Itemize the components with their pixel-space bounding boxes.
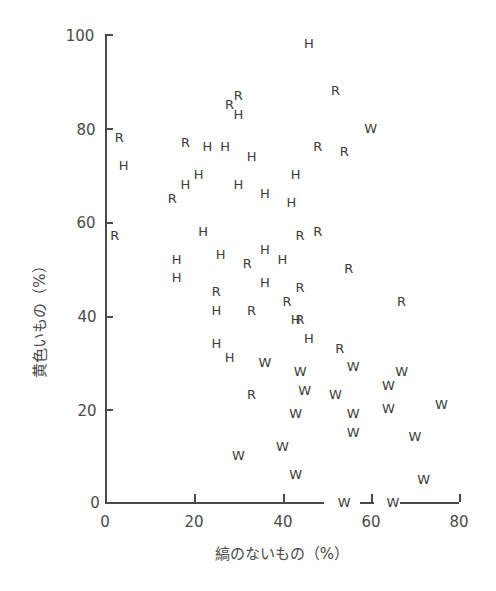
x-tick-80 [459, 494, 461, 502]
x-axis-line-segment-2 [360, 502, 374, 504]
data-point-r: R [331, 84, 340, 97]
data-point-h: H [291, 168, 301, 181]
data-point-r: R [247, 388, 256, 401]
data-point-w: W [417, 472, 430, 485]
data-point-w: W [338, 496, 351, 509]
data-point-r: R [397, 294, 406, 307]
data-point-r: R [344, 262, 353, 275]
data-point-h: H [194, 168, 204, 181]
data-point-h: H [225, 350, 235, 363]
data-point-w: W [289, 467, 302, 480]
data-point-r: R [225, 98, 234, 111]
data-point-r: R [168, 191, 177, 204]
data-point-w: W [347, 407, 360, 420]
y-tick-label: 60 [76, 214, 95, 232]
data-point-h: H [278, 252, 288, 265]
data-point-h: H [233, 107, 243, 120]
data-point-w: W [347, 425, 360, 438]
data-point-r: R [335, 341, 344, 354]
y-tick-80 [105, 128, 113, 130]
data-point-h: H [260, 276, 270, 289]
data-point-r: R [340, 145, 349, 158]
data-point-r: R [313, 140, 322, 153]
data-point-r: R [313, 224, 322, 237]
x-tick-label: 80 [449, 513, 468, 531]
data-point-h: H [260, 243, 270, 256]
data-point-h: H [172, 252, 182, 265]
data-point-h: H [216, 247, 226, 260]
y-tick-40 [105, 316, 113, 318]
scatter-chart: 100 80 60 40 20 0 0 20 40 60 80 黄色いもの（%）… [0, 0, 496, 591]
x-tick-20 [194, 494, 196, 502]
data-point-w: W [298, 383, 311, 396]
data-point-w: W [294, 364, 307, 377]
y-tick-60 [105, 222, 113, 224]
data-point-h: H [198, 224, 208, 237]
data-point-r: R [110, 229, 119, 242]
data-point-h: H [220, 140, 230, 153]
data-point-h: H [181, 177, 191, 190]
data-point-w: W [382, 379, 395, 392]
x-tick-40 [283, 494, 285, 502]
data-point-r: R [282, 294, 291, 307]
data-point-w: W [382, 402, 395, 415]
x-tick-label: 40 [273, 513, 292, 531]
data-point-w: W [347, 360, 360, 373]
data-point-h: H [286, 196, 296, 209]
data-point-h: H [304, 332, 314, 345]
data-point-h: H [211, 336, 221, 349]
x-axis-line-segment-3 [400, 502, 459, 504]
y-tick-100 [105, 34, 113, 36]
data-point-w: W [386, 496, 399, 509]
y-tick-label: 0 [90, 494, 100, 512]
data-point-h: H [211, 304, 221, 317]
data-point-r: R [181, 135, 190, 148]
data-point-w: W [232, 449, 245, 462]
data-point-h: H [233, 177, 243, 190]
data-point-r: R [296, 280, 305, 293]
y-axis-line [105, 34, 107, 503]
data-point-w: W [289, 407, 302, 420]
x-axis-title: 縞のないもの（%） [215, 542, 349, 563]
y-tick-label: 20 [77, 402, 96, 420]
x-axis-line-segment-1 [105, 502, 324, 504]
data-point-h: H [304, 37, 314, 50]
data-point-r: R [234, 88, 243, 101]
data-point-w: W [408, 430, 421, 443]
data-point-r: R [115, 130, 124, 143]
data-point-r: R [296, 229, 305, 242]
data-point-h: H [247, 149, 257, 162]
data-point-r: R [296, 313, 305, 326]
y-tick-label: 80 [76, 121, 95, 139]
data-point-r: R [243, 257, 252, 270]
data-point-w: W [435, 397, 448, 410]
y-tick-20 [105, 409, 113, 411]
data-point-w: W [258, 355, 271, 368]
y-tick-label: 40 [77, 308, 96, 326]
data-point-w: W [395, 364, 408, 377]
x-tick-label: 0 [100, 513, 110, 531]
data-point-r: R [247, 304, 256, 317]
data-point-h: H [119, 159, 129, 172]
x-tick-60 [371, 494, 373, 502]
data-point-h: H [203, 140, 213, 153]
y-tick-label: 100 [66, 27, 95, 45]
x-tick-label: 20 [184, 513, 203, 531]
data-point-w: W [364, 121, 377, 134]
data-point-w: W [276, 439, 289, 452]
data-point-h: H [172, 271, 182, 284]
data-point-w: W [329, 388, 342, 401]
data-point-h: H [260, 187, 270, 200]
data-point-r: R [212, 285, 221, 298]
y-axis-title: 黄色いもの（%） [28, 258, 49, 377]
x-tick-label: 60 [361, 513, 380, 531]
